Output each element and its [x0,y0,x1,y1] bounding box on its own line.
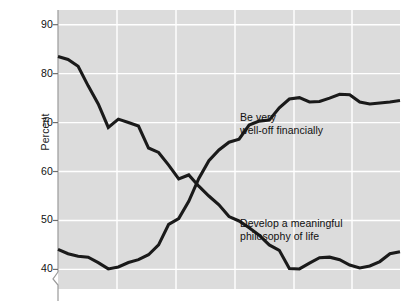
series-label-be-very-well-off-financially: Be very well-off financially [240,111,323,136]
y-axis-tick-50: 50 [27,213,53,225]
y-axis-tick-60: 60 [27,165,53,177]
series-label-develop-a-meaningful-philosophy-of-life: Develop a meaningful philosophy of life [240,217,343,242]
y-axis-tick-40: 40 [27,262,53,274]
y-axis-title: Percent [39,97,53,167]
line-chart [0,0,413,301]
y-axis-tick-80: 80 [27,67,53,79]
y-axis-tick-90: 90 [27,18,53,30]
y-axis-tick-70: 70 [27,116,53,128]
chart-container: Percent 405060708090 Be very well-off fi… [0,0,413,301]
